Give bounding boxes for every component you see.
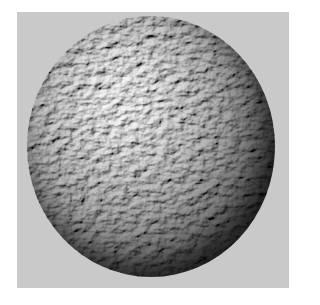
sphere-shading bbox=[27, 16, 275, 277]
textured-sphere bbox=[27, 16, 275, 277]
